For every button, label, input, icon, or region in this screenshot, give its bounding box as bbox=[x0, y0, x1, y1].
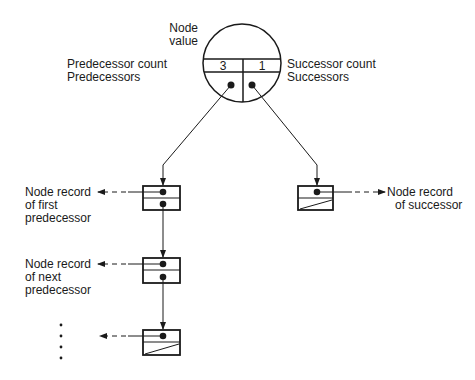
node-diagram: 3 1 Node value Predecessor count Predece… bbox=[0, 0, 475, 380]
null-pointer-slash bbox=[300, 200, 332, 209]
null-pointer-slash bbox=[145, 344, 179, 354]
pred1-label-line1: Node record bbox=[25, 185, 91, 199]
pred1-label-line2: of first bbox=[25, 198, 58, 212]
pred1-label-line3: predecessor bbox=[25, 211, 91, 225]
successors-pointer-arrow bbox=[252, 85, 317, 185]
successors-label: Successors bbox=[287, 70, 349, 84]
node-value-label-line2: value bbox=[169, 34, 198, 48]
predecessors-pointer-arrow bbox=[163, 85, 231, 185]
pred2-label-line1: Node record bbox=[25, 257, 91, 271]
predecessor-record-2 bbox=[98, 258, 180, 283]
pred2-label-line3: predecessor bbox=[25, 283, 91, 297]
node-value-label-line1: Node bbox=[169, 21, 198, 35]
vertical-ellipsis-icon bbox=[60, 324, 63, 360]
pred2-label-line2: of next bbox=[25, 270, 62, 284]
successor-record-1 bbox=[298, 186, 385, 210]
successor-count-label: Successor count bbox=[287, 57, 376, 71]
succ1-label-line1: Node record bbox=[387, 185, 453, 199]
predecessor-count-label: Predecessor count bbox=[67, 57, 168, 71]
predecessor-record-3 bbox=[100, 330, 180, 355]
predecessor-count-value: 3 bbox=[220, 59, 227, 73]
node-circle: 3 1 bbox=[203, 24, 281, 102]
succ1-label-line2: of successor bbox=[395, 198, 462, 212]
predecessor-record-1 bbox=[98, 186, 180, 210]
predecessors-label: Predecessors bbox=[67, 70, 140, 84]
successor-count-value: 1 bbox=[259, 59, 266, 73]
